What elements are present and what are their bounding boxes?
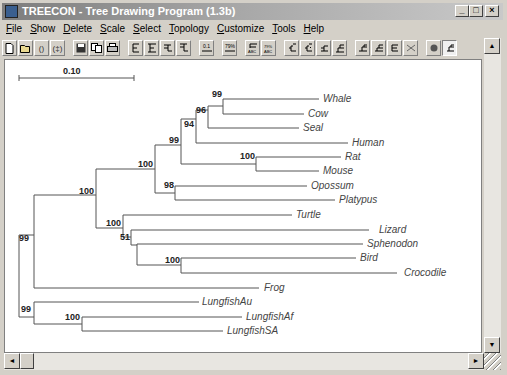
scroll-thumb[interactable] (20, 353, 34, 369)
bootstrap-placentals: 99 (169, 135, 179, 145)
taxon-label[interactable]: Sphenodon (367, 238, 419, 249)
taxon-label[interactable]: Cow (308, 108, 329, 119)
scroll-right-button[interactable]: ► (468, 353, 484, 369)
scroll-up-button[interactable]: ▲ (484, 38, 500, 54)
branch-c-icon[interactable] (387, 40, 402, 56)
menu-delete[interactable]: Delete (59, 21, 96, 37)
ladderize-icon[interactable] (332, 40, 347, 56)
bootstrap-whale-cow-seal: 96 (196, 105, 206, 115)
bootstrap-lungfish: 99 (21, 304, 31, 314)
scroll-down-button[interactable]: ▼ (484, 337, 500, 353)
menu-bar: File Show Delete Scale Select Topology C… (2, 21, 328, 37)
new-file-icon[interactable] (2, 40, 17, 56)
app-icon (5, 5, 18, 18)
taxon-label[interactable]: Rat (345, 151, 362, 162)
svg-text:ABC: ABC (264, 49, 272, 53)
minimize-button[interactable]: _ (455, 5, 469, 17)
menu-tools[interactable]: Tools (268, 21, 299, 37)
menu-topology-label: Topology (169, 23, 209, 34)
taxon-label[interactable]: Crocodile (404, 267, 447, 278)
rotate-left-icon[interactable] (284, 40, 299, 56)
rotate-right-icon[interactable] (300, 40, 315, 56)
menu-show-label: Show (30, 23, 55, 34)
bootstrap-whale-cow: 99 (212, 89, 222, 99)
bracket-alt-icon[interactable]: (‡) (50, 40, 65, 56)
label-abc-alt-icon[interactable]: 79%ABC (261, 40, 276, 56)
menu-delete-label: Delete (63, 23, 92, 34)
label-abc-icon[interactable]: ABC (245, 40, 260, 56)
bootstrap-lizard-group: 51 (120, 232, 130, 242)
menu-customize[interactable]: Customize (213, 21, 268, 37)
menu-help-label: Help (304, 23, 325, 34)
bootstrap-mammals: 100 (138, 159, 153, 169)
menu-tools-label: Tools (272, 23, 295, 34)
bootstrap-lungfish-af-sa: 100 (65, 312, 80, 322)
taxon-label[interactable]: Frog (264, 282, 285, 293)
bootstrap-bird-croc: 100 (165, 255, 180, 265)
taxon-label[interactable]: Seal (303, 122, 324, 133)
menu-scale-label: Scale (100, 23, 125, 34)
cross-icon[interactable] (403, 40, 418, 56)
phylogenetic-tree: 0.10 99 96 94 99 100 100 98 100 100 51 1… (5, 60, 482, 353)
bootstrap-reptiles: 100 (106, 218, 121, 228)
tree-left-icon[interactable] (128, 40, 143, 56)
taxon-label[interactable]: Lizard (379, 224, 407, 235)
menu-select[interactable]: Select (129, 21, 165, 37)
taxon-label[interactable]: Turtle (296, 209, 321, 220)
svg-text:0.1: 0.1 (203, 43, 210, 49)
bootstrap-ruminant-human: 94 (184, 119, 194, 129)
maximize-button[interactable]: □ (469, 5, 483, 17)
menu-select-label: Select (133, 23, 161, 34)
taxon-label[interactable]: Opossum (311, 180, 354, 191)
bracket-icon[interactable]: () (34, 40, 49, 56)
scale-value-icon[interactable]: 79% (222, 40, 237, 56)
menu-scale[interactable]: Scale (96, 21, 129, 37)
branch-a-icon[interactable] (355, 40, 370, 56)
taxon-label[interactable]: LungfishAf (246, 311, 294, 322)
horizontal-scrollbar[interactable]: ◄ ► (4, 353, 484, 370)
bootstrap-root: 99 (19, 233, 29, 243)
tree-left-alt-icon[interactable] (144, 40, 159, 56)
treecon-window: TREECON - Tree Drawing Program (1.3b) _ … (0, 0, 507, 375)
flip-node-icon[interactable] (316, 40, 331, 56)
menu-file-label: File (6, 23, 22, 34)
bootstrap-rat-mouse: 100 (240, 151, 255, 161)
taxon-label[interactable]: Human (352, 137, 385, 148)
taxon-label[interactable]: LungfishSA (227, 325, 278, 336)
menu-help[interactable]: Help (300, 21, 329, 37)
tree-canvas[interactable]: 0.10 99 96 94 99 100 100 98 100 100 51 1… (4, 59, 482, 353)
taxon-label[interactable]: Whale (323, 93, 352, 104)
taxon-label[interactable]: Mouse (323, 165, 353, 176)
print-icon[interactable] (105, 40, 120, 56)
svg-text:79%: 79% (225, 43, 236, 49)
color-icon[interactable] (426, 40, 441, 56)
menu-show[interactable]: Show (26, 21, 59, 37)
copy-icon[interactable] (89, 40, 104, 56)
toolbar: () (‡) 0.1 79% ABC 79%ABC (2, 38, 484, 58)
bootstrap-amniotes: 100 (79, 186, 94, 196)
font-icon[interactable] (442, 40, 457, 56)
open-file-icon[interactable] (18, 40, 33, 56)
scale-bar-icon[interactable]: 0.1 (199, 40, 214, 56)
save-icon[interactable] (73, 40, 88, 56)
resize-grip[interactable] (484, 353, 501, 370)
menu-file[interactable]: File (2, 21, 26, 37)
menu-customize-label: Customize (217, 23, 264, 34)
scale-bar-label: 0.10 (63, 66, 81, 76)
title-bar: TREECON - Tree Drawing Program (1.3b) _ … (2, 3, 503, 20)
taxon-label[interactable]: LungfishAu (202, 296, 252, 307)
bootstrap-opossum-platypus: 98 (164, 180, 174, 190)
vertical-scrollbar[interactable]: ▲ ▼ (484, 38, 501, 353)
tree-right-icon[interactable] (160, 40, 175, 56)
scroll-left-button[interactable]: ◄ (4, 353, 20, 369)
menu-topology[interactable]: Topology (165, 21, 213, 37)
tree-right-alt-icon[interactable] (176, 40, 191, 56)
svg-text:ABC: ABC (248, 49, 256, 53)
close-button[interactable]: × (485, 5, 499, 17)
taxon-label[interactable]: Platypus (339, 194, 377, 205)
window-title: TREECON - Tree Drawing Program (1.3b) (22, 5, 235, 17)
branch-b-icon[interactable] (371, 40, 386, 56)
taxon-label[interactable]: Bird (360, 252, 378, 263)
